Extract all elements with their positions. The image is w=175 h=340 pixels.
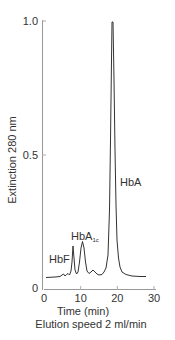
y-tick-label-05: 0.5 [23, 149, 38, 161]
x-tick-label-10: 10 [75, 292, 87, 304]
chromatogram-chart: 1.0 0.5 0 0 10 20 30 Extinction 280 nm T… [0, 0, 175, 340]
chart-subtitle: Elution speed 2 ml/min [35, 318, 146, 330]
x-tick-label-20: 20 [111, 292, 123, 304]
y-tick-label-1: 1.0 [23, 15, 38, 27]
y-axis-label: Extinction 280 nm [6, 116, 18, 203]
peak-label-hbf: HbF [49, 253, 70, 265]
peak-label-hba: HbA [120, 176, 142, 188]
x-tick-label-0: 0 [41, 292, 47, 304]
x-tick-label-30: 30 [148, 292, 160, 304]
x-axis-label: Time (min) [57, 305, 109, 317]
y-tick-label-0: 0 [32, 282, 38, 294]
peak-label-hba1c: HbA1c [71, 230, 99, 243]
